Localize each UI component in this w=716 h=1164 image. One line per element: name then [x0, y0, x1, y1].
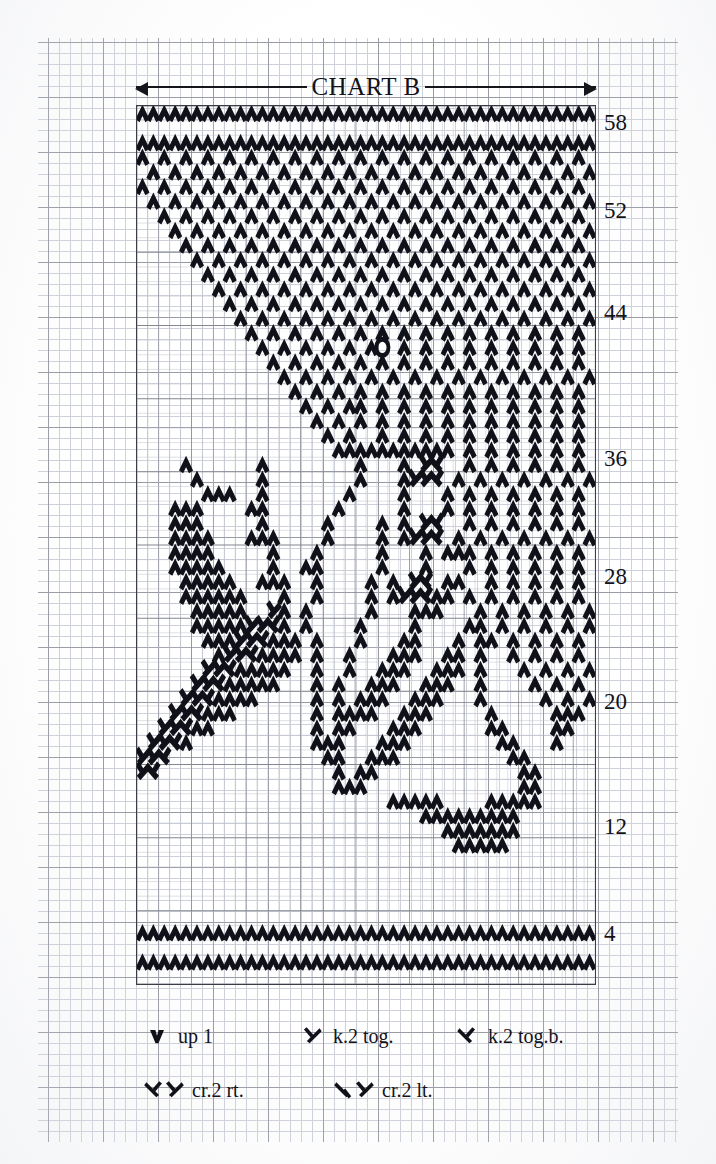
- arrow-left-icon: [136, 86, 307, 88]
- page-title: CHART B: [307, 73, 424, 101]
- legend-label: k.2 tog.b.: [488, 1025, 564, 1048]
- legend-item-up1: up 1: [136, 1022, 291, 1050]
- row-number: 12: [604, 815, 627, 838]
- legend-item-k2togb: k.2 tog.b.: [446, 1022, 564, 1050]
- legend-row: cr.2 rt. cr.2 lt.: [136, 1070, 606, 1110]
- up-1-icon: [136, 1022, 178, 1050]
- row-number: 20: [604, 690, 627, 713]
- legend-label: cr.2 lt.: [382, 1079, 433, 1102]
- chart-symbol-layer: [137, 106, 595, 984]
- k-2-tog-b-icon: [446, 1022, 488, 1050]
- chart-grid: [136, 105, 596, 985]
- legend-item-k2tog: k.2 tog.: [291, 1022, 446, 1050]
- legend-label: up 1: [178, 1025, 213, 1048]
- row-number: 44: [604, 301, 627, 324]
- row-number: 4: [604, 922, 616, 945]
- chart-title-arrow: CHART B: [136, 70, 596, 104]
- legend: up 1 k.2 tog. k.2 tog.b.: [136, 1016, 606, 1108]
- legend-label: cr.2 rt.: [192, 1079, 244, 1102]
- row-number: 36: [604, 447, 627, 470]
- cr-2-lt-icon: [326, 1076, 382, 1104]
- legend-item-cr2rt: cr.2 rt.: [136, 1076, 326, 1104]
- row-number: 52: [604, 199, 627, 222]
- row-number: 28: [604, 565, 627, 588]
- row-number: 58: [604, 111, 627, 134]
- arrow-right-icon: [425, 86, 596, 88]
- legend-item-cr2lt: cr.2 lt.: [326, 1076, 433, 1104]
- k-2-tog-icon: [291, 1022, 333, 1050]
- legend-row: up 1 k.2 tog. k.2 tog.b.: [136, 1016, 606, 1056]
- cr-2-rt-icon: [136, 1076, 192, 1104]
- legend-label: k.2 tog.: [333, 1025, 394, 1048]
